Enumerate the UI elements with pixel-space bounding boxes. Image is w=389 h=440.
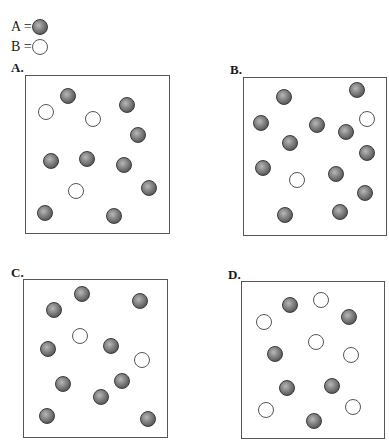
filled-sphere-icon — [119, 97, 135, 113]
filled-sphere-icon — [359, 145, 375, 161]
filled-sphere-icon — [253, 115, 269, 131]
filled-sphere-icon — [46, 302, 62, 318]
panel-label-b: B. — [230, 63, 242, 77]
empty-circle-icon — [359, 111, 375, 127]
empty-circle-icon — [72, 328, 88, 344]
filled-sphere-icon — [141, 180, 157, 196]
filled-sphere-icon — [116, 157, 132, 173]
filled-sphere-icon — [332, 204, 348, 220]
filled-sphere-icon — [39, 408, 55, 424]
filled-sphere-icon — [282, 135, 298, 151]
filled-sphere-icon — [106, 208, 122, 224]
panel-label-a: A. — [11, 61, 24, 75]
empty-circle-icon — [258, 402, 274, 418]
filled-sphere-icon — [37, 205, 53, 221]
empty-circle-icon — [85, 111, 101, 127]
empty-circle-icon — [289, 172, 305, 188]
filled-sphere-icon — [309, 117, 325, 133]
empty-circle-icon — [343, 347, 359, 363]
legend-label-b: B = — [11, 39, 32, 54]
empty-circle-icon — [313, 292, 329, 308]
filled-sphere-icon — [279, 380, 295, 396]
filled-sphere-icon — [276, 89, 292, 105]
filled-sphere-icon — [357, 185, 373, 201]
empty-circle-icon — [308, 334, 324, 350]
filled-sphere-icon — [277, 207, 293, 223]
empty-circle-icon — [256, 314, 272, 330]
filled-sphere-icon — [267, 346, 283, 362]
filled-sphere-icon — [140, 411, 156, 427]
filled-sphere-icon — [306, 413, 322, 429]
filled-sphere-icon — [324, 378, 340, 394]
filled-sphere-icon — [341, 309, 357, 325]
filled-sphere-icon — [40, 341, 56, 357]
filled-sphere-icon — [328, 166, 344, 182]
panel-label-d: D. — [228, 268, 241, 282]
empty-circle-icon — [134, 352, 150, 368]
filled-sphere-icon — [93, 389, 109, 405]
filled-sphere-icon — [74, 286, 90, 302]
panel-label-c: C. — [11, 266, 24, 280]
filled-sphere-icon — [338, 124, 354, 140]
filled-sphere-icon — [55, 376, 71, 392]
empty-circle-icon — [32, 39, 48, 55]
empty-circle-icon — [345, 399, 361, 415]
filled-sphere-icon — [43, 153, 59, 169]
filled-sphere-icon — [349, 82, 365, 98]
empty-circle-icon — [68, 183, 84, 199]
legend-row-b: B = — [11, 39, 32, 55]
filled-sphere-icon — [79, 151, 95, 167]
filled-sphere-icon — [282, 297, 298, 313]
filled-sphere-icon — [103, 338, 119, 354]
filled-sphere-icon — [132, 293, 148, 309]
filled-sphere-icon — [255, 160, 271, 176]
legend-label-a: A = — [11, 19, 32, 34]
filled-sphere-icon — [60, 88, 76, 104]
filled-sphere-icon — [114, 373, 130, 389]
empty-circle-icon — [38, 104, 54, 120]
legend-row-a: A = — [11, 19, 32, 35]
filled-sphere-icon — [130, 127, 146, 143]
filled-sphere-icon — [32, 19, 48, 35]
